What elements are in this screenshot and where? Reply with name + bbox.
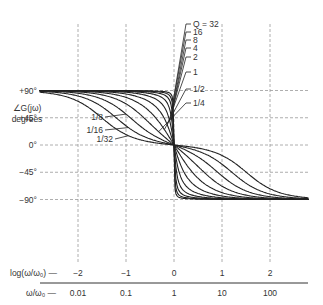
y-axis-label-line1: ∠G(jω) bbox=[13, 103, 42, 113]
x-log-tick-label: −2 bbox=[73, 268, 83, 278]
curve-label: 1/2 bbox=[193, 84, 205, 94]
x-log-tick-label: 2 bbox=[268, 268, 273, 278]
x-linear-tick-label: 10 bbox=[217, 288, 227, 298]
curve-label: 1/8 bbox=[91, 112, 103, 122]
curve-label: 1/4 bbox=[193, 98, 205, 108]
curve-label: 1/32 bbox=[96, 134, 113, 144]
y-tick-label: 0° bbox=[29, 140, 37, 150]
y-axis-label-line2: degrees bbox=[12, 114, 43, 124]
curve-labels: Q = 321684211/21/41/81/161/32 bbox=[86, 19, 219, 144]
x-linear-tick-label: 1 bbox=[172, 288, 177, 298]
curve-label: 2 bbox=[193, 52, 198, 62]
x-linear-tick-label: 0.1 bbox=[120, 288, 132, 298]
y-tick-label: −90° bbox=[19, 195, 37, 205]
x-axis-label-log: log(ω/ω₀) — bbox=[10, 268, 58, 278]
x-log-tick-label: 1 bbox=[220, 268, 225, 278]
x-log-tick-label: −1 bbox=[121, 268, 131, 278]
x-log-tick-label: 0 bbox=[172, 268, 177, 278]
x-axis-label-linear: ω/ω₀ — bbox=[26, 288, 57, 298]
x-linear-tick-label: 0.01 bbox=[70, 288, 87, 298]
x-linear-tick-label: 100 bbox=[263, 288, 277, 298]
y-tick-label: −45° bbox=[19, 167, 37, 177]
curve-label: 1 bbox=[193, 67, 198, 77]
y-tick-label: +90° bbox=[19, 86, 37, 96]
phase-chart: Q = 321684211/21/41/81/161/32 +90°+45°0°… bbox=[0, 0, 323, 305]
